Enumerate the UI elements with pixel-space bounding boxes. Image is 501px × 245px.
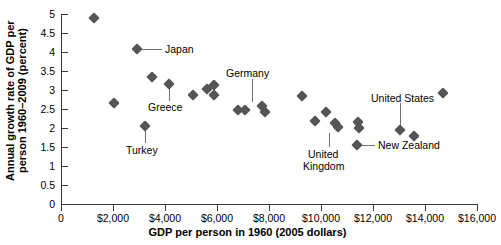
annotation-united-states: United States xyxy=(371,92,434,104)
y-tick xyxy=(62,204,68,205)
data-point-japan xyxy=(131,43,142,54)
x-tick-label: $14,000 xyxy=(395,213,455,224)
y-tick-label: 3 xyxy=(18,85,55,96)
x-tick xyxy=(217,205,218,211)
data-point xyxy=(309,115,320,126)
data-point xyxy=(320,106,331,117)
y-tick-label: 3.5 xyxy=(18,66,55,77)
x-tick-label: $4,000 xyxy=(135,213,195,224)
y-tick xyxy=(62,90,68,91)
data-point xyxy=(437,87,448,98)
leader-line-turkey xyxy=(145,131,146,143)
x-tick xyxy=(477,205,478,211)
x-tick xyxy=(61,205,62,211)
annotation-united-kingdom-line1: United xyxy=(308,148,338,160)
data-point xyxy=(296,90,307,101)
y-tick-label: 5 xyxy=(18,9,55,20)
data-point-turkey xyxy=(139,120,150,131)
y-tick xyxy=(62,109,68,110)
x-tick-label: $16,000 xyxy=(447,213,501,224)
x-tick xyxy=(113,205,114,211)
y-tick-label: 4.5 xyxy=(18,28,55,39)
y-tick-label: 1.5 xyxy=(18,142,55,153)
x-tick-label: $2,000 xyxy=(83,213,143,224)
annotation-turkey: Turkey xyxy=(126,144,158,156)
x-tick-label: $6,000 xyxy=(187,213,247,224)
data-point xyxy=(239,104,250,115)
data-point-greece xyxy=(163,78,174,89)
data-point xyxy=(88,12,99,23)
annotation-japan: Japan xyxy=(165,43,194,55)
data-point xyxy=(187,89,198,100)
y-tick xyxy=(62,166,68,167)
y-tick-label: 0.5 xyxy=(18,180,55,191)
data-point xyxy=(108,97,119,108)
y-tick xyxy=(62,33,68,34)
leader-line-japan xyxy=(142,49,162,50)
annotation-united-kingdom-line2: Kingdom xyxy=(303,160,344,172)
y-tick xyxy=(62,185,68,186)
x-tick-label: $8,000 xyxy=(239,213,299,224)
y-tick-label: 2 xyxy=(18,123,55,134)
y-tick-label: 4 xyxy=(18,47,55,58)
x-tick xyxy=(165,205,166,211)
x-tick-label: 0 xyxy=(31,213,91,224)
annotation-germany: Germany xyxy=(226,67,269,79)
data-point-united-states xyxy=(394,124,405,135)
y-tick-label: 1 xyxy=(18,161,55,172)
y-tick-label: 0 xyxy=(18,199,55,210)
data-point xyxy=(146,71,157,82)
y-tick xyxy=(62,147,68,148)
leader-line-united-kingdom xyxy=(329,133,330,147)
x-tick xyxy=(425,205,426,211)
y-axis-title: Annual growth rate of GDP per person 196… xyxy=(4,16,18,186)
y-tick xyxy=(62,14,68,15)
y-tick xyxy=(62,128,68,129)
x-tick-label: $10,000 xyxy=(291,213,351,224)
leader-line-germany xyxy=(252,79,253,102)
data-point-new-zealand xyxy=(351,139,362,150)
x-tick xyxy=(321,205,322,211)
x-tick xyxy=(269,205,270,211)
annotation-greece: Greece xyxy=(148,101,182,113)
y-tick-label: 2.5 xyxy=(18,104,55,115)
y-tick xyxy=(62,52,68,53)
x-axis-title: GDP per person in 1960 (2005 dollars) xyxy=(0,226,495,238)
x-tick-label: $12,000 xyxy=(343,213,403,224)
y-tick xyxy=(62,71,68,72)
annotation-new-zealand: New Zealand xyxy=(378,139,440,151)
x-tick xyxy=(373,205,374,211)
